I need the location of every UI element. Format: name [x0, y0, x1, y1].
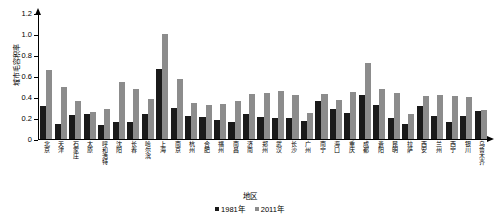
bar-group: [198, 14, 212, 139]
y-axis-tick: [34, 140, 38, 141]
y-axis-tick: [34, 77, 38, 78]
bar-group: [329, 14, 343, 139]
bar-group: [372, 14, 386, 139]
bar: [162, 34, 168, 139]
y-axis-tick-label: 0: [28, 136, 32, 144]
y-axis-tick-label: 0.2: [22, 115, 32, 123]
bar-group: [227, 14, 241, 139]
y-axis-tick: [34, 119, 38, 120]
bar-group: [416, 14, 430, 139]
bar-group: [387, 14, 401, 139]
bar: [119, 82, 125, 139]
legend-item-2011: 2011年: [255, 203, 284, 214]
bar-group: [242, 14, 256, 139]
x-axis-tick-label: 武汉: [271, 141, 286, 191]
bar: [46, 70, 52, 139]
bar: [307, 113, 313, 139]
bar: [104, 109, 110, 139]
bar: [206, 105, 212, 139]
x-axis-tick-label: 南京: [170, 141, 185, 191]
x-axis-tick-label: 哈尔滨: [141, 141, 156, 191]
bar: [75, 101, 81, 139]
bar-group: [314, 14, 328, 139]
bar-group: [68, 14, 82, 139]
bar: [321, 94, 327, 139]
bar-group: [474, 14, 488, 139]
bar: [278, 91, 284, 139]
x-axis-tick-label: 拉萨: [402, 141, 417, 191]
bar-group: [53, 14, 67, 139]
bar: [452, 96, 458, 139]
x-axis-tick-label: 成都: [358, 141, 373, 191]
legend-label: 1981年: [221, 203, 245, 214]
bar-group: [445, 14, 459, 139]
bar: [61, 87, 67, 140]
x-axis-tick-label: 呼和浩特: [97, 141, 112, 191]
bar-group: [358, 14, 372, 139]
x-axis-tick-label: 重庆: [344, 141, 359, 191]
bar: [437, 95, 443, 139]
x-axis-tick-label: 广州: [300, 141, 315, 191]
x-axis-tick-label: 合肥: [199, 141, 214, 191]
x-axis-title: 地区: [0, 190, 499, 201]
x-axis-tick-label: 石家庄: [68, 141, 83, 191]
bar: [466, 97, 472, 139]
bar: [264, 93, 270, 139]
bar-group: [184, 14, 198, 139]
bar-chart: 城市毛容积率 00.20.40.60.81.01.2 北京天津石家庄太原呼和浩特…: [0, 0, 499, 220]
bar: [220, 104, 226, 139]
bar-group: [155, 14, 169, 139]
y-axis-tick: [34, 35, 38, 36]
bar: [249, 94, 255, 139]
x-axis-tick-label: 长沙: [286, 141, 301, 191]
x-axis-tick-label: 兰州: [431, 141, 446, 191]
x-axis-tick-label: 西安: [416, 141, 431, 191]
bar-group: [459, 14, 473, 139]
x-axis-tick-label: 上海: [155, 141, 170, 191]
bar: [423, 96, 429, 139]
chart-legend: 1981年 2011年: [0, 203, 499, 214]
bar: [148, 99, 154, 139]
y-axis-tick-label: 0.6: [22, 73, 32, 81]
bar: [481, 110, 487, 139]
y-axis-tick: [34, 56, 38, 57]
bar: [292, 95, 298, 139]
x-axis-tick-label: 北京: [39, 141, 54, 191]
bar-group: [256, 14, 270, 139]
bar-group: [285, 14, 299, 139]
bar: [394, 93, 400, 139]
bar-group: [140, 14, 154, 139]
bar: [235, 101, 241, 139]
y-axis-tick-label: 1.2: [22, 10, 32, 18]
x-axis-tick-label: 贵阳: [373, 141, 388, 191]
x-axis-tick-label: 济南: [242, 141, 257, 191]
plot-area: 00.20.40.60.81.01.2: [38, 14, 488, 140]
bar-group: [343, 14, 357, 139]
x-axis-tick-label: 南宁: [315, 141, 330, 191]
bar: [133, 89, 139, 139]
y-axis-title: 城市毛容积率: [11, 15, 21, 115]
x-axis-tick-label: 天津: [54, 141, 69, 191]
x-axis-line: [38, 139, 488, 140]
x-axis-tick-label: 银川: [460, 141, 475, 191]
x-axis-tick-label: 沈阳: [112, 141, 127, 191]
bar: [191, 103, 197, 139]
legend-swatch-icon: [215, 207, 219, 211]
x-axis-tick-label: 西宁: [445, 141, 460, 191]
legend-item-1981: 1981年: [215, 203, 245, 214]
bar-group: [111, 14, 125, 139]
x-axis-tick-label: 郑州: [257, 141, 272, 191]
bar-group: [430, 14, 444, 139]
y-axis-tick-label: 0.8: [22, 52, 32, 60]
x-axis-tick-label: 长春: [126, 141, 141, 191]
x-axis-tick-label: 南昌: [228, 141, 243, 191]
bar-group: [169, 14, 183, 139]
x-axis-tick-label: 福州: [213, 141, 228, 191]
x-axis-tick-labels: 北京天津石家庄太原呼和浩特沈阳长春哈尔滨上海南京杭州合肥福州南昌济南郑州武汉长沙…: [39, 141, 489, 191]
bar-group: [271, 14, 285, 139]
bar-group: [401, 14, 415, 139]
x-axis-tick-label: 昆明: [387, 141, 402, 191]
bar: [90, 112, 96, 139]
x-axis-tick-label: 海口: [329, 141, 344, 191]
bar: [336, 100, 342, 139]
